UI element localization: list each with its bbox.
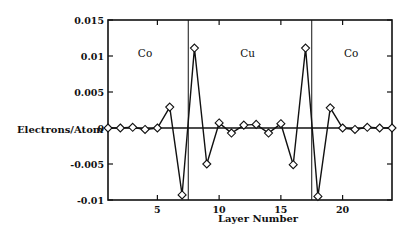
diamond-marker	[363, 123, 371, 131]
region-labels: CoCuCo	[138, 47, 359, 59]
y-tick-label: 0.015	[74, 15, 104, 26]
diamond-marker	[153, 124, 161, 132]
diamond-marker	[129, 123, 137, 131]
diamond-marker	[190, 44, 198, 52]
diamond-marker	[339, 124, 347, 132]
series-line	[108, 48, 392, 196]
region-label-cu: Cu	[240, 47, 255, 59]
diamond-marker	[203, 160, 211, 168]
region-label-co: Co	[344, 47, 358, 59]
diamond-marker	[116, 124, 124, 132]
diamond-marker	[351, 125, 359, 133]
x-tick-label: 5	[154, 204, 161, 215]
line-chart: -0.01-0.00500.0050.010.015 5101520 CoCuC…	[0, 0, 408, 241]
diamond-marker	[376, 124, 384, 132]
diamond-marker	[388, 124, 396, 132]
diamond-marker	[141, 125, 149, 133]
diamond-marker	[289, 161, 297, 169]
y-tick-label: -0.005	[70, 159, 104, 170]
y-tick-label: 0.005	[74, 87, 104, 98]
region-label-co: Co	[138, 47, 152, 59]
x-axis-label: Layer Number	[218, 213, 299, 224]
diamond-marker	[166, 103, 174, 111]
x-tick-label: 20	[336, 204, 350, 215]
y-tick-label: -0.01	[77, 195, 104, 206]
data-series	[104, 44, 396, 200]
diamond-marker	[104, 124, 112, 132]
diamond-marker	[302, 44, 310, 52]
diamond-marker	[326, 104, 334, 112]
y-axis-label: Electrons/Atom	[17, 124, 104, 135]
y-tick-label: 0.01	[81, 51, 104, 62]
y-axis-ticks: -0.01-0.00500.0050.010.015	[70, 15, 392, 206]
diamond-marker	[178, 191, 186, 199]
